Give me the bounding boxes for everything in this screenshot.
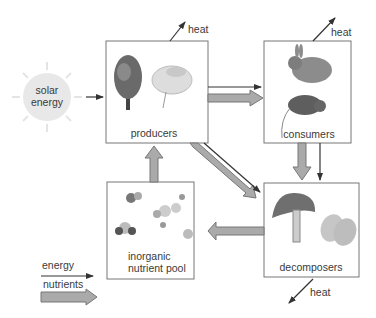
consumers-decomposers-nutrient-arrow [293, 143, 311, 180]
inorganic-label-line2: nutrient pool [128, 262, 186, 274]
sun-label-line1: solar [36, 84, 59, 96]
decomposers-label: decomposers [279, 261, 342, 273]
producers-label: producers [131, 127, 178, 139]
producers-decomposers-energy-arrow [204, 143, 260, 192]
producers-heat-arrow [170, 22, 185, 41]
ecosystem-diagram: solar energy producers consumers inorgan… [0, 0, 376, 318]
inorganic-producers-nutrient-arrow [145, 146, 163, 182]
decomposers-inorganic-nutrient-arrow [208, 222, 264, 240]
sun-label-line2: energy [31, 96, 64, 108]
producers-decomposers-nutrient-arrow [190, 143, 256, 198]
producers-heat-label: heat [188, 23, 209, 35]
consumers-label: consumers [283, 128, 334, 140]
decomposers-heat-label: heat [310, 286, 331, 298]
legend-nutrients-label: nutrients [43, 278, 83, 290]
inorganic-label-line1: inorganic [128, 250, 171, 262]
legend-nutrients-arrow [41, 289, 97, 305]
legend-energy-label: energy [42, 259, 75, 271]
producers-consumers-nutrient-arrow [208, 90, 263, 106]
consumers-heat-label: heat [331, 26, 352, 38]
